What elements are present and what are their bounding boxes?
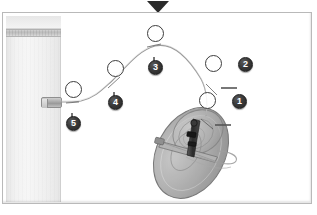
callout-hotspot-1[interactable] <box>199 92 216 109</box>
disc-assembly <box>138 95 243 204</box>
callout-badge-2[interactable]: 2 <box>238 57 253 72</box>
figure-canvas: 1 2 3 4 5 <box>0 0 317 215</box>
routing-cable <box>61 44 207 116</box>
callout-badge-5[interactable]: 5 <box>66 116 81 131</box>
callout-badge-4[interactable]: 4 <box>108 95 123 110</box>
callout-hotspot-5[interactable] <box>65 81 82 98</box>
callout-badge-1[interactable]: 1 <box>232 94 247 109</box>
callout-hotspot-4[interactable] <box>107 60 124 77</box>
illustration-frame: 1 2 3 4 5 <box>2 12 312 204</box>
callout-hotspot-3[interactable] <box>147 25 164 42</box>
callout-badge-3[interactable]: 3 <box>148 60 163 75</box>
callout-hotspot-2[interactable] <box>205 55 222 72</box>
